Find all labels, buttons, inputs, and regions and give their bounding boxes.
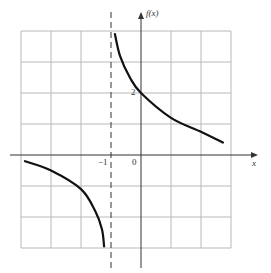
tick-label-neg-one: −1 bbox=[98, 158, 108, 167]
x-axis-label: x bbox=[252, 159, 256, 168]
curve-lower-branch bbox=[25, 161, 104, 246]
function-graph bbox=[0, 0, 271, 273]
tick-label-two: 2 bbox=[131, 88, 136, 97]
grid bbox=[21, 31, 231, 248]
tick-label-zero: 0 bbox=[132, 158, 137, 167]
y-axis-label: f(x) bbox=[146, 9, 159, 18]
y-axis-arrow-icon bbox=[138, 12, 144, 19]
